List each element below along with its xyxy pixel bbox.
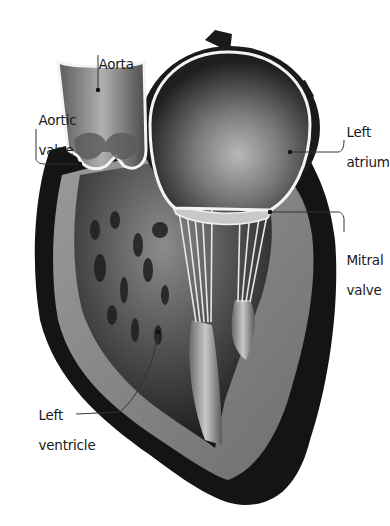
label-aorta: Aorta (82, 42, 134, 87)
label-left-atrium: Left atrium (330, 110, 390, 185)
label-left-ventricle: Left ventricle (22, 393, 96, 468)
left-atrium-chamber (150, 52, 310, 210)
label-mitral-valve: Mitral valve (330, 238, 383, 313)
label-aortic-valve: Aortic valve (22, 98, 76, 173)
heart-diagram: Aorta Aortic valve Left atrium Mitral va… (0, 0, 390, 526)
